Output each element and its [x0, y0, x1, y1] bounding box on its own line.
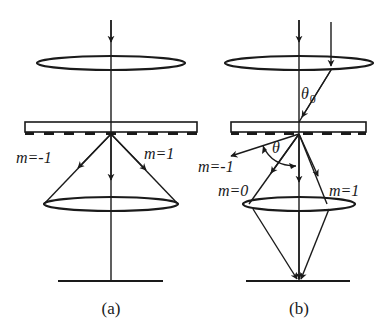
ray-m-minus-1-arrow [78, 134, 111, 168]
label-theta0: θ0 [301, 85, 316, 106]
label-m-minus-1: m=-1 [16, 149, 52, 166]
panel-a: m=-1 m=1 (a) [16, 20, 197, 318]
caption-b: (b) [289, 299, 309, 318]
ray-m-plus-1-arrow [111, 134, 146, 170]
panel-b: θ0 θ [198, 20, 373, 318]
label-m-plus-1: m=1 [329, 182, 359, 199]
ray-m-minus-1 [231, 134, 299, 156]
label-m-minus-1: m=-1 [198, 158, 234, 175]
ray-m-plus-1-converge [301, 209, 329, 279]
label-theta: θ [272, 139, 280, 156]
ray-m-0-converge [253, 209, 297, 279]
label-m-plus-1: m=1 [144, 145, 174, 162]
label-m-0: m=0 [218, 182, 248, 199]
theta-arc-arrow-end [289, 163, 296, 169]
optical-diffraction-diagram: m=-1 m=1 (a) θ0 [0, 0, 384, 328]
caption-a: (a) [102, 299, 121, 318]
ray-m-plus-1-arrow [299, 134, 318, 176]
